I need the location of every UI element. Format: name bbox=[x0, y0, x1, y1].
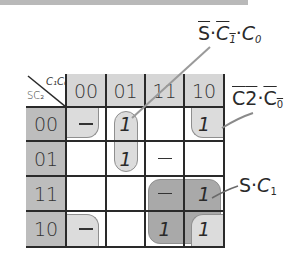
var-s: S bbox=[239, 174, 251, 196]
label-c2bar-c0bar: C2·C0 bbox=[232, 87, 283, 110]
var-c0: C bbox=[242, 22, 255, 44]
var-c: C bbox=[232, 87, 245, 109]
subscript: 2 bbox=[245, 87, 257, 109]
subscript: 0 bbox=[255, 34, 261, 45]
var-c: C bbox=[257, 174, 270, 196]
subscript: 0 bbox=[277, 99, 283, 110]
var-c: C bbox=[263, 87, 276, 109]
var-c2-bar: C2 bbox=[232, 87, 257, 109]
var-c: C bbox=[216, 22, 229, 44]
label-s-c1: S·C1 bbox=[239, 174, 277, 197]
var-s-bar: S bbox=[198, 22, 210, 44]
label-sbar-c1bar-c0: S·C1·C0 bbox=[198, 22, 261, 45]
subscript: 1 bbox=[270, 186, 276, 197]
var-c1-bar: C1 bbox=[216, 22, 236, 44]
var-c0-bar: C0 bbox=[263, 87, 283, 109]
